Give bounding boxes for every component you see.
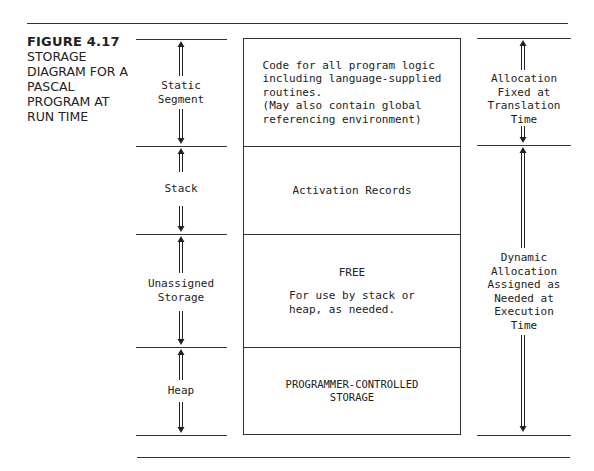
- cell-activation-records: Activation Records: [244, 147, 460, 234]
- cell-code: Code for all program logic including lan…: [244, 39, 460, 146]
- cell-programmer-controlled: PROGRAMMER-CONTROLLED STORAGE: [244, 348, 460, 434]
- label-allocation-fixed: Allocation Fixed at Translation Time: [484, 72, 564, 126]
- label-static-segment: Static Segment: [150, 79, 212, 106]
- storage-box: Code for all program logic including lan…: [243, 38, 461, 435]
- label-stack: Stack: [150, 182, 212, 196]
- label-unassigned-storage: Unassigned Storage: [140, 277, 222, 304]
- label-dynamic-allocation: Dynamic Allocation Assigned as Needed at…: [484, 251, 564, 332]
- right-boundary-0: [477, 38, 571, 39]
- right-boundary-1: [477, 145, 571, 146]
- cell-free: FREE For use by stack or heap, as needed…: [244, 235, 460, 347]
- right-boundary-2: [477, 435, 571, 436]
- label-heap: Heap: [150, 384, 212, 398]
